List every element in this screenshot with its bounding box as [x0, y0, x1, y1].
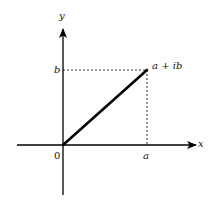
x-axis-label: x: [198, 139, 204, 149]
diagram-canvas: [0, 0, 214, 214]
vector-line: [63, 70, 147, 145]
y-tick-label-b: b: [54, 65, 60, 75]
point-label: a + ib: [152, 61, 182, 71]
y-axis-label: y: [59, 11, 65, 21]
origin-label: 0: [54, 151, 60, 161]
x-tick-label-a: a: [143, 151, 149, 161]
complex-plane-diagram: y x 0 b a a + ib: [0, 0, 214, 214]
